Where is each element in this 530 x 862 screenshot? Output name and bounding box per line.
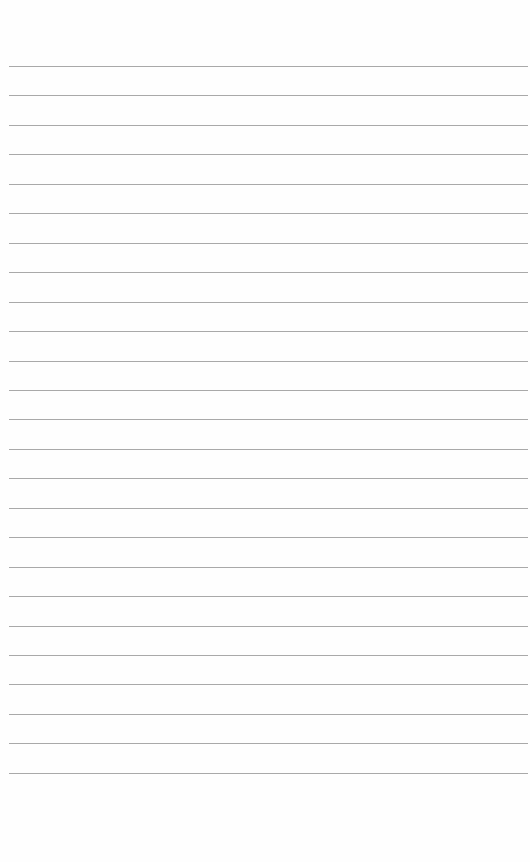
ruled-line: [9, 390, 528, 391]
ruled-line: [9, 361, 528, 362]
ruled-line: [9, 537, 528, 538]
ruled-line: [9, 567, 528, 568]
ruled-line: [9, 184, 528, 185]
ruled-line: [9, 331, 528, 332]
ruled-line: [9, 478, 528, 479]
ruled-line: [9, 213, 528, 214]
ruled-line: [9, 95, 528, 96]
ruled-line: [9, 773, 528, 774]
ruled-line: [9, 508, 528, 509]
ruled-line: [9, 154, 528, 155]
ruled-line: [9, 743, 528, 744]
ruled-line: [9, 125, 528, 126]
ruled-line: [9, 684, 528, 685]
ruled-line: [9, 626, 528, 627]
ruled-line: [9, 302, 528, 303]
notebook-page: [0, 0, 530, 862]
ruled-line: [9, 596, 528, 597]
ruled-line: [9, 655, 528, 656]
ruled-line: [9, 243, 528, 244]
ruled-line: [9, 272, 528, 273]
ruled-line: [9, 449, 528, 450]
ruled-line: [9, 419, 528, 420]
ruled-line: [9, 714, 528, 715]
ruled-line: [9, 66, 528, 67]
